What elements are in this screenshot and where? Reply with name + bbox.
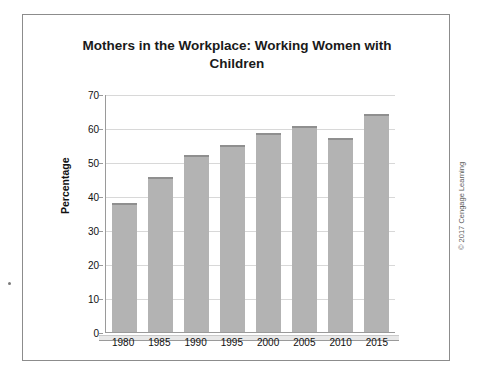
bar-slot	[106, 95, 142, 332]
x-axis-tick-label: 1985	[141, 337, 177, 348]
bar-slot	[214, 95, 250, 332]
x-axis-tick-label: 1995	[214, 337, 250, 348]
bar	[364, 114, 389, 332]
x-axis-tick-label: 1980	[105, 337, 141, 348]
bar	[184, 155, 209, 332]
chart-title: Mothers in the Workplace: Working Women …	[63, 37, 411, 73]
x-axis-tick-label: 2005	[286, 337, 322, 348]
y-axis-tick-label: 70	[71, 90, 99, 101]
y-axis-tick-mark	[99, 299, 103, 300]
y-axis-tick-label: 60	[71, 124, 99, 135]
y-axis-tick-mark	[99, 333, 103, 334]
bar	[112, 203, 137, 332]
y-axis-tick-mark	[99, 129, 103, 130]
x-axis-tick-label: 2015	[359, 337, 395, 348]
y-axis-tick-mark	[99, 265, 103, 266]
x-axis-tick-label: 2010	[323, 337, 359, 348]
bar	[256, 133, 281, 332]
bar-slot	[287, 95, 323, 332]
bar	[328, 138, 353, 332]
bar-slot	[142, 95, 178, 332]
x-axis-tick-label: 1990	[178, 337, 214, 348]
chart-title-line-2: Children	[210, 56, 265, 71]
bar-slot	[178, 95, 214, 332]
stray-mark	[8, 282, 11, 285]
y-axis-tick-mark	[99, 163, 103, 164]
copyright-notice: © 2017 Cengage Learning	[457, 162, 466, 250]
y-axis-tick-label: 50	[71, 158, 99, 169]
x-axis-tick-label: 2000	[250, 337, 286, 348]
plot-area	[105, 95, 395, 333]
y-axis-tick-label: 10	[71, 294, 99, 305]
bar	[148, 177, 173, 332]
x-axis-tick-labels: 19801985199019952000200520102015	[105, 337, 395, 348]
bar-series	[106, 95, 395, 332]
y-axis-tick-label: 30	[71, 226, 99, 237]
bar-slot	[323, 95, 359, 332]
bar-slot	[359, 95, 395, 332]
y-axis-tick-mark	[99, 95, 103, 96]
y-axis-tick-labels: 010203040506070	[67, 95, 99, 333]
y-axis-tick-label: 20	[71, 260, 99, 271]
y-axis-tick-mark	[99, 197, 103, 198]
chart-title-line-1: Mothers in the Workplace: Working Women …	[82, 38, 391, 53]
bar	[220, 145, 245, 332]
y-axis-tick-label: 0	[71, 328, 99, 339]
bar-slot	[251, 95, 287, 332]
y-axis-tick-label: 40	[71, 192, 99, 203]
bar	[292, 126, 317, 332]
figure-panel: Mothers in the Workplace: Working Women …	[22, 14, 450, 361]
y-axis-tick-mark	[99, 231, 103, 232]
